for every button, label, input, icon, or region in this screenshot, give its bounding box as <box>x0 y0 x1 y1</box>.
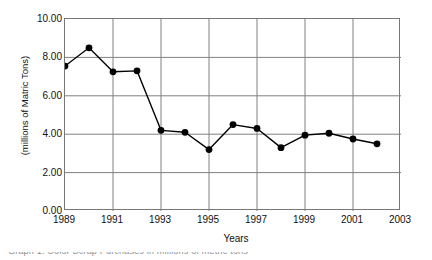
data-point-marker <box>350 136 357 143</box>
data-point-marker <box>134 67 141 74</box>
data-point-marker <box>302 132 309 139</box>
figure-caption-text: Graph 1: Color Scrap Purchases in millio… <box>8 252 424 256</box>
figure-caption-clipped: Graph 1: Color Scrap Purchases in millio… <box>8 252 424 260</box>
y-tick-label: 2.00 <box>20 166 62 177</box>
x-tick-label: 1991 <box>92 214 132 225</box>
x-tick-label: 1989 <box>44 214 84 225</box>
data-point-marker <box>278 144 285 151</box>
x-tick-label: 1995 <box>188 214 228 225</box>
y-tick-label: 6.00 <box>20 89 62 100</box>
data-point-marker <box>206 146 213 153</box>
data-point-marker <box>230 121 237 128</box>
y-tick-label: 8.00 <box>20 51 62 62</box>
y-tick-label: 4.00 <box>20 128 62 139</box>
x-tick-label: 2003 <box>380 214 420 225</box>
y-tick-label: 10.00 <box>20 13 62 24</box>
data-point-marker <box>326 130 333 137</box>
x-tick-label: 2001 <box>332 214 372 225</box>
chart-figure: (millions of Matric Tons) 0.002.004.006.… <box>0 0 432 260</box>
x-axis-title: Years <box>166 233 306 244</box>
plot-area <box>64 18 400 210</box>
x-tick-label: 1993 <box>140 214 180 225</box>
data-point-marker <box>110 68 117 75</box>
x-tick-label: 1997 <box>236 214 276 225</box>
data-point-marker <box>182 129 189 136</box>
line-chart-svg <box>65 19 401 211</box>
data-point-marker <box>374 140 381 147</box>
data-point-marker <box>86 44 93 51</box>
data-point-marker <box>158 127 165 134</box>
data-point-marker <box>254 125 261 132</box>
x-tick-label: 1999 <box>284 214 324 225</box>
